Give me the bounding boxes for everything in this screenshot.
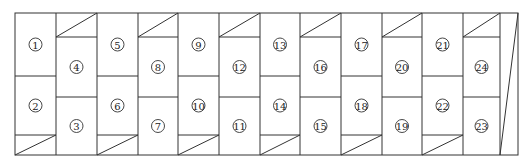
panel-number-label: 17	[355, 40, 368, 51]
outer-border	[15, 13, 518, 155]
triangle-diagonal	[382, 13, 422, 37]
panel-number-label: 14	[274, 101, 287, 112]
panel-number-label: 20	[396, 62, 409, 73]
panel-number-label: 22	[436, 101, 449, 112]
panel-number-label: 11	[233, 121, 246, 132]
panel-layout-diagram: 123456789101112131415161718192021222324	[0, 0, 529, 167]
triangle-diagonal	[15, 135, 56, 155]
triangle-diagonal	[300, 13, 341, 37]
panel-number-label: 21	[436, 40, 449, 51]
panel-number-label: 23	[475, 121, 488, 132]
panel-number-label: 24	[475, 62, 488, 73]
panel-number-label: 9	[195, 40, 201, 51]
panel-number-label: 15	[314, 121, 327, 132]
triangle-diagonal	[138, 13, 178, 37]
triangle-diagonal	[341, 135, 382, 155]
panel-number-label: 18	[355, 101, 368, 112]
panel-number-label: 4	[73, 62, 79, 73]
panel-number-label: 19	[396, 121, 409, 132]
triangle-diagonal	[422, 135, 463, 155]
panel-number-label: 1	[32, 40, 38, 51]
panel-number-label: 16	[314, 62, 327, 73]
triangle-diagonal	[260, 135, 300, 155]
triangle-diagonal	[97, 135, 138, 155]
panel-number-label: 10	[192, 101, 205, 112]
panel-number-label: 7	[155, 121, 161, 132]
panel-number-label: 12	[233, 62, 246, 73]
panel-number-label: 3	[73, 121, 79, 132]
triangle-diagonal	[219, 13, 260, 37]
panel-number-label: 6	[114, 101, 120, 112]
end-wedge-diagonal	[500, 13, 518, 155]
panel-number-label: 13	[274, 40, 287, 51]
panel-number-label: 2	[32, 101, 38, 112]
triangle-diagonal	[463, 13, 500, 37]
panel-number-label: 8	[155, 62, 161, 73]
panel-number-label: 5	[114, 40, 120, 51]
triangle-diagonal	[56, 13, 97, 37]
triangle-diagonal	[178, 135, 219, 155]
diagram-canvas: 123456789101112131415161718192021222324	[0, 0, 529, 167]
